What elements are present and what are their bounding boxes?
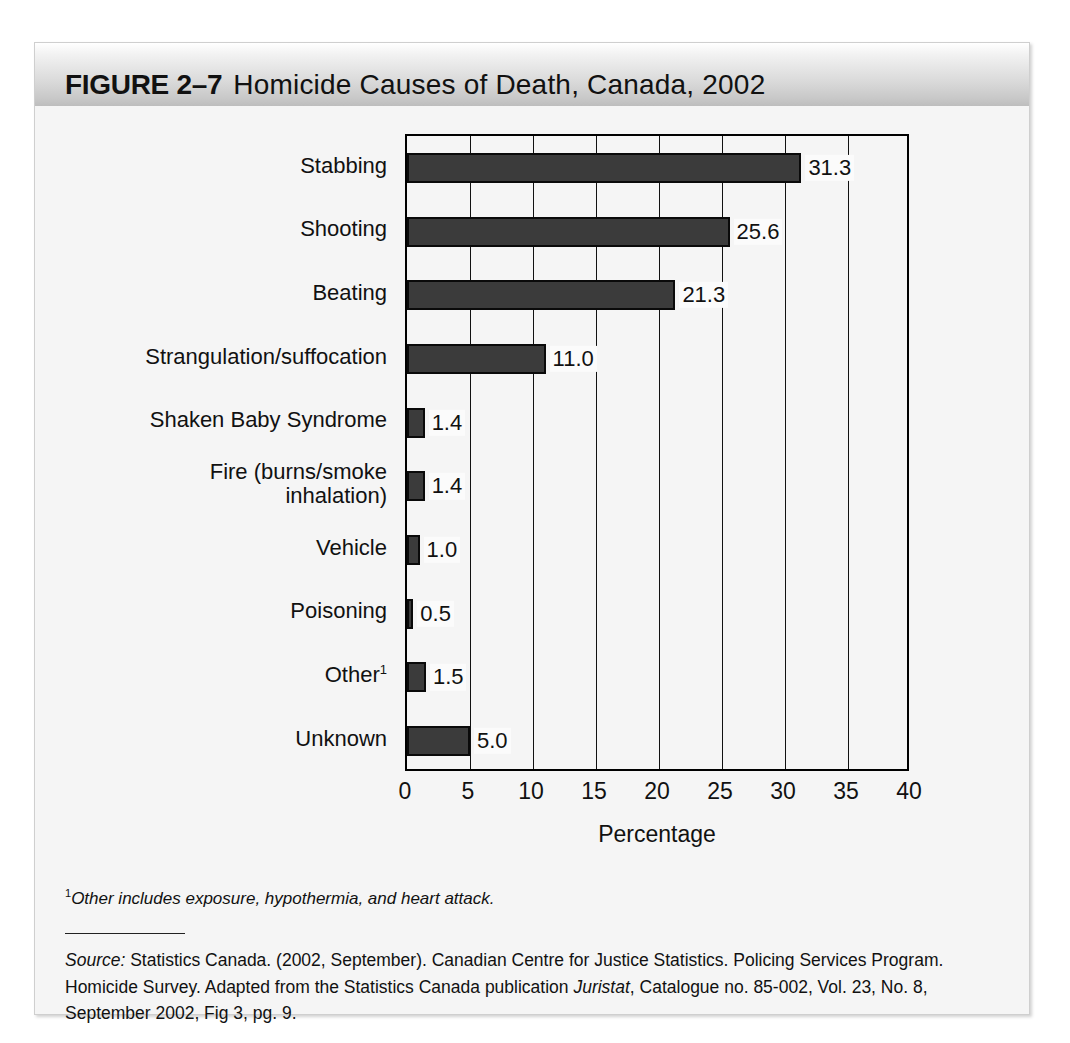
bar: 1.4 <box>407 408 425 438</box>
category-label: Poisoning <box>35 580 397 644</box>
category-footnote-marker: 1 <box>380 662 387 677</box>
figure-header-band: FIGURE 2–7Homicide Causes of Death, Cana… <box>35 43 1029 106</box>
x-tick-label: 30 <box>770 778 796 805</box>
x-tick-label: 10 <box>518 778 544 805</box>
bar: 5.0 <box>407 726 470 756</box>
bar: 11.0 <box>407 344 546 374</box>
plot-area: 31.325.621.311.01.41.41.00.51.55.0 <box>405 134 909 771</box>
bar-row: 11.0 <box>407 327 907 391</box>
x-axis-tick-labels: 0510152025303540 <box>405 778 909 812</box>
figure-panel: FIGURE 2–7Homicide Causes of Death, Cana… <box>34 42 1030 1015</box>
bar-value-label: 1.4 <box>429 473 466 499</box>
bar-row: 5.0 <box>407 709 907 773</box>
figure-number-label: FIGURE 2–7 <box>65 69 222 100</box>
x-tick-label: 20 <box>644 778 670 805</box>
figure-title-line: FIGURE 2–7Homicide Causes of Death, Cana… <box>65 69 765 101</box>
bar-value-label: 1.4 <box>429 410 466 436</box>
bar: 21.3 <box>407 280 675 310</box>
chart-region: StabbingShootingBeatingStrangulation/suf… <box>35 106 1029 896</box>
bar-value-label: 1.5 <box>430 664 467 690</box>
bar: 1.4 <box>407 471 425 501</box>
x-tick-label: 5 <box>462 778 475 805</box>
x-tick-label: 0 <box>399 778 412 805</box>
footnote-text: Other includes exposure, hypothermia, an… <box>71 889 494 908</box>
category-label: Other1 <box>35 644 397 708</box>
bar-row: 31.3 <box>407 136 907 200</box>
bar-row: 21.3 <box>407 263 907 327</box>
bar-row: 1.0 <box>407 518 907 582</box>
bar-row: 1.5 <box>407 646 907 710</box>
category-label: Stabbing <box>35 134 397 198</box>
category-label: Strangulation/suffocation <box>35 325 397 389</box>
bar-value-label: 21.3 <box>679 282 728 308</box>
footnote: 1Other includes exposure, hypothermia, a… <box>65 888 1001 911</box>
bar: 25.6 <box>407 217 730 247</box>
bar-row: 1.4 <box>407 455 907 519</box>
bar: 1.0 <box>407 535 420 565</box>
x-tick-label: 40 <box>896 778 922 805</box>
bar-row: 0.5 <box>407 582 907 646</box>
bar-row: 25.6 <box>407 200 907 264</box>
x-tick-label: 15 <box>581 778 607 805</box>
category-label: Fire (burns/smokeinhalation) <box>35 453 397 517</box>
bar-value-label: 0.5 <box>417 601 454 627</box>
bar-value-label: 1.0 <box>424 537 461 563</box>
source-divider <box>65 933 185 934</box>
source-label: Source: <box>65 950 125 970</box>
bar: 31.3 <box>407 153 801 183</box>
page-title: Homicide Causes of Death, Canada, 2002 <box>233 69 765 100</box>
source-note: Source: Statistics Canada. (2002, Septem… <box>65 947 1001 1027</box>
x-axis-title: Percentage <box>405 821 909 848</box>
notes-region: 1Other includes exposure, hypothermia, a… <box>65 888 1001 1027</box>
category-label: Shooting <box>35 198 397 262</box>
x-tick-label: 35 <box>833 778 859 805</box>
category-axis-labels: StabbingShootingBeatingStrangulation/suf… <box>35 134 397 771</box>
category-label: Unknown <box>35 707 397 771</box>
category-label: Vehicle <box>35 516 397 580</box>
bar-value-label: 31.3 <box>805 155 854 181</box>
category-label: Beating <box>35 261 397 325</box>
bar: 1.5 <box>407 662 426 692</box>
bar-row: 1.4 <box>407 391 907 455</box>
category-label: Shaken Baby Syndrome <box>35 389 397 453</box>
x-tick-label: 25 <box>707 778 733 805</box>
bar: 0.5 <box>407 599 413 629</box>
bar-value-label: 5.0 <box>474 728 511 754</box>
source-publication: Juristat <box>573 977 629 997</box>
bar-value-label: 25.6 <box>734 218 783 244</box>
bar-value-label: 11.0 <box>550 346 597 372</box>
